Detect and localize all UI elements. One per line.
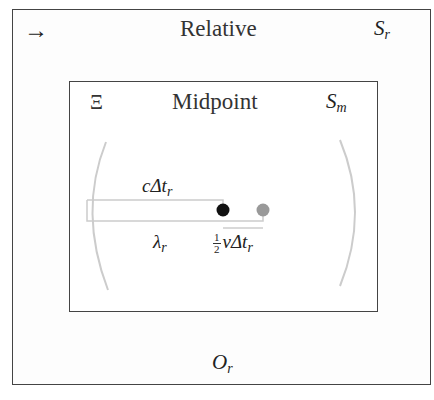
light-travel-line (87, 200, 223, 206)
wavelength-label: λr (153, 232, 167, 255)
wavelength-line (87, 200, 263, 221)
left-wavefront-arc (92, 142, 108, 290)
midpoint-dot (217, 204, 230, 217)
right-wavefront-arc (340, 140, 355, 286)
light-travel-label: cΔtr (142, 176, 172, 199)
one-half-fraction: 12 (213, 232, 221, 255)
source-dot (257, 204, 270, 217)
diagram-graphics (0, 0, 434, 400)
offset-label: 12vΔtr (213, 232, 253, 255)
